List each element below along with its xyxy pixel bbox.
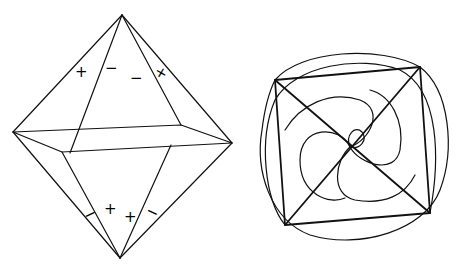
edge bbox=[120, 143, 232, 258]
sign: − bbox=[143, 201, 162, 223]
sign: + bbox=[104, 200, 117, 218]
sign: + bbox=[151, 62, 171, 84]
edge bbox=[120, 145, 171, 258]
sign: + bbox=[75, 63, 88, 81]
sign: + bbox=[124, 208, 137, 226]
spiral-curve bbox=[338, 147, 416, 201]
diagram-canvas: + − − + − + + − bbox=[0, 0, 456, 267]
sign: − bbox=[105, 59, 118, 77]
edge bbox=[70, 15, 122, 153]
square-spiral-figure bbox=[260, 53, 448, 240]
octahedron-figure: + − − + − + + − bbox=[13, 15, 232, 258]
equator bbox=[13, 125, 232, 152]
spiral-curve bbox=[300, 132, 350, 200]
spiral-curve bbox=[285, 97, 373, 147]
sign: − bbox=[81, 203, 100, 225]
edge bbox=[13, 132, 120, 258]
spiral-curve bbox=[350, 90, 401, 165]
sign: − bbox=[130, 69, 143, 87]
outer-curve bbox=[260, 53, 448, 240]
